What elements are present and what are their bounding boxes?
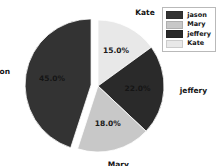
legend-item-jeffery[interactable]: jeffery <box>166 30 211 39</box>
pie-outer-label-mary: Mary <box>108 160 129 166</box>
legend-item-mary[interactable]: Mary <box>166 20 211 29</box>
pie-percent-label-mary: 18.0% <box>95 119 122 128</box>
pie-percent-label-jason: 45.0% <box>39 74 66 83</box>
legend-label-jason: jason <box>187 11 207 20</box>
pie-slice-jason <box>25 19 91 148</box>
pie-percent-label-jeffery: 22.0% <box>124 84 151 93</box>
legend-label-mary: Mary <box>187 20 205 29</box>
legend-swatch-jeffery <box>166 30 183 38</box>
pie-outer-label-jeffery: jeffery <box>179 86 208 95</box>
pie-percent-label-kate: 15.0% <box>103 46 130 55</box>
pie-outer-label-kate: Kate <box>135 8 155 17</box>
legend-label-kate: Kate <box>187 39 204 48</box>
legend-swatch-kate <box>166 40 183 48</box>
legend-item-kate[interactable]: Kate <box>166 39 211 48</box>
pie-chart: 15.0%22.0%18.0%45.0% KatejefferyMaryjaso… <box>0 0 219 166</box>
legend-swatch-mary <box>166 21 183 29</box>
legend-label-jeffery: jeffery <box>187 30 211 39</box>
pie-outer-label-jason: jason <box>0 67 10 76</box>
chart-legend: jasonMaryjefferyKate <box>162 7 216 52</box>
legend-item-jason[interactable]: jason <box>166 11 211 20</box>
legend-swatch-jason <box>166 11 183 19</box>
